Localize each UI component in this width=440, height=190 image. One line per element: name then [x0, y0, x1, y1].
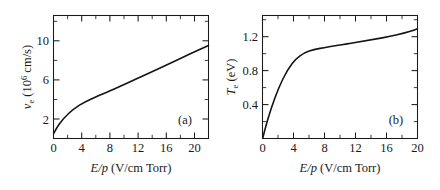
y-axis-title-b: Te (eV) — [224, 59, 240, 96]
x-axis-title-symbol: E/p — [299, 161, 317, 175]
y-tick-label: 10 — [37, 34, 50, 48]
y-axis-right-minor-ticks-a — [205, 21, 209, 99]
y-axis-title-a: ve (106 cm/s) — [19, 45, 36, 109]
chart-svg-b: 0 4 8 12 16 20 0.4 0.8 1.2 E/p (V/cm Tor… — [220, 0, 440, 190]
chart-svg-a: 0 4 8 12 16 20 2 6 10 E/p (V/cm Torr) — [0, 0, 220, 190]
x-tick-label: 4 — [290, 141, 297, 155]
x-axis-title-b: E/p (V/cm Torr) — [299, 161, 381, 175]
x-tick-label: 12 — [132, 141, 145, 155]
y-tick-label: 6 — [43, 73, 49, 87]
panel-label-a: (a) — [178, 113, 192, 127]
x-tick-label: 16 — [380, 141, 393, 155]
svg-text:Te (eV): Te (eV) — [224, 59, 240, 96]
x-tick-label: 8 — [107, 141, 113, 155]
x-axis-minor-ticks-b — [278, 135, 402, 139]
y-tick-label: 0.8 — [242, 64, 258, 78]
y-axis-right-major-ticks-a — [203, 41, 209, 119]
y-axis-title-units: (eV) — [224, 59, 238, 85]
chart-panel-b: 0 4 8 12 16 20 0.4 0.8 1.2 E/p (V/cm Tor… — [220, 0, 440, 190]
x-tick-label: 20 — [188, 141, 201, 155]
x-tick-label: 0 — [259, 141, 265, 155]
x-tick-labels-a: 0 4 8 12 16 20 — [50, 141, 200, 155]
x-tick-label: 12 — [349, 141, 362, 155]
svg-text:E/p (V/cm Torr): E/p (V/cm Torr) — [299, 161, 381, 175]
y-tick-label: 0.4 — [242, 98, 258, 112]
y-tick-label: 2 — [43, 113, 49, 127]
x-tick-label: 4 — [79, 141, 86, 155]
panel-label-b: (b) — [389, 113, 404, 127]
x-tick-label: 0 — [50, 141, 56, 155]
x-axis-title-units: (V/cm Torr) — [317, 161, 380, 175]
figure-container: 0 4 8 12 16 20 2 6 10 E/p (V/cm Torr) — [0, 0, 440, 190]
x-axis-title-a: E/p (V/cm Torr) — [90, 161, 172, 175]
y-axis-right-major-ticks-b — [412, 37, 418, 105]
x-tick-label: 20 — [411, 141, 424, 155]
y-axis-title-units-close: cm/s) — [20, 45, 34, 76]
y-tick-labels-a: 2 6 10 — [37, 34, 50, 126]
x-axis-title-units: (V/cm Torr) — [108, 161, 171, 175]
x-axis-title-symbol: E/p — [90, 161, 108, 175]
svg-text:ve (106 cm/s): ve (106 cm/s) — [19, 45, 36, 109]
svg-text:E/p (V/cm Torr): E/p (V/cm Torr) — [90, 161, 172, 175]
chart-panel-a: 0 4 8 12 16 20 2 6 10 E/p (V/cm Torr) — [0, 0, 220, 190]
y-tick-labels-b: 0.4 0.8 1.2 — [242, 30, 258, 112]
y-axis-title-units-open: (10 — [20, 80, 34, 100]
y-tick-label: 1.2 — [242, 30, 258, 44]
x-axis-top-minor-ticks-b — [278, 16, 402, 20]
y-axis-minor-ticks-a — [54, 21, 58, 99]
y-axis-major-ticks-b — [263, 37, 269, 105]
x-tick-label: 16 — [160, 141, 173, 155]
x-axis-top-minor-ticks-a — [68, 16, 181, 20]
y-axis-major-ticks-a — [54, 41, 60, 119]
x-tick-label: 8 — [321, 141, 327, 155]
x-axis-top-major-ticks-a — [82, 16, 195, 22]
x-tick-labels-b: 0 4 8 12 16 20 — [259, 141, 423, 155]
